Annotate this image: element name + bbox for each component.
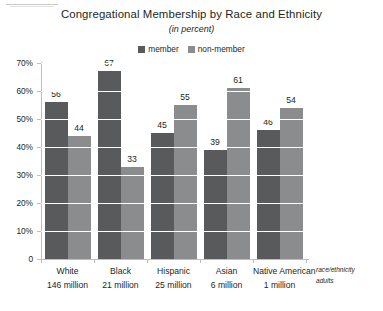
category-population: 6 million [200,278,253,292]
axis-annotation-line2: adults [316,276,355,287]
bar-member[interactable]: 46 [257,130,280,259]
category-population: 146 million [41,278,94,292]
plot-area: 56446733455539614654 [41,63,306,259]
bar-group: 4555 [147,63,200,259]
chart-container: Congregational Membership by Race and Et… [0,0,383,311]
bar-value-label: 33 [127,154,137,164]
bar-value-label: 46 [263,117,273,127]
x-axis-tick [200,259,201,263]
bar-value-label: 44 [74,123,84,133]
legend-swatch-member [138,46,145,53]
bar-non-member[interactable]: 55 [174,105,197,259]
axis-annotation-line1: race/ethnicity [316,265,355,276]
decorative-rule-secondary [10,6,54,7]
x-axis-category-label: Hispanic25 million [147,264,200,292]
legend-label-non-member: non-member [198,44,245,54]
bar-member[interactable]: 67 [98,71,121,259]
x-axis-category-label: Black21 million [94,264,147,292]
bar-member[interactable]: 56 [45,102,68,259]
x-axis-category-label: Native American1 million [253,264,306,292]
y-axis-tick [37,119,41,120]
category-name: Asian [216,266,238,276]
category-name: Native American [253,266,316,276]
y-axis-tick [37,147,41,148]
bar-group: 6733 [94,63,147,259]
bar-member[interactable]: 45 [151,133,174,259]
bar-group: 3961 [200,63,253,259]
legend-swatch-non-member [188,46,195,53]
bar-value-label: 39 [210,137,220,147]
bar-member[interactable]: 39 [204,150,227,259]
x-axis-tick [253,259,254,263]
y-axis-tick-label: 40% [0,142,33,152]
legend-item-member: member [138,44,178,54]
legend-item-non-member: non-member [188,44,245,54]
bar-value-label: 45 [157,120,167,130]
y-axis-tick [37,231,41,232]
bar-non-member[interactable]: 44 [68,136,91,259]
y-axis-tick-label: 70% [0,58,33,68]
x-axis-tick [147,259,148,263]
y-axis-tick [37,175,41,176]
y-axis-tick-label: 10% [0,226,33,236]
x-axis-category-label: Asian6 million [200,264,253,292]
bar-non-member[interactable]: 61 [227,88,250,259]
bar-value-label: 54 [286,95,296,105]
bar-value-label: 61 [233,75,243,85]
chart-title: Congregational Membership by Race and Et… [0,8,383,20]
category-population: 25 million [147,278,200,292]
x-axis-tick [94,259,95,263]
y-axis-tick-label: 60% [0,86,33,96]
x-axis-tick [306,259,307,263]
y-axis-tick [37,63,41,64]
y-axis-tick-label: 50% [0,114,33,124]
x-axis-line [41,259,309,260]
y-axis-tick-label: 20% [0,198,33,208]
category-name: Black [110,266,131,276]
bar-non-member[interactable]: 54 [280,108,303,259]
y-axis-tick-label: 30% [0,170,33,180]
bar-group: 5644 [41,63,94,259]
decorative-rule [6,4,58,5]
category-name: Hispanic [157,266,190,276]
bar-value-label: 55 [180,92,190,102]
category-name: White [57,266,79,276]
chart-subtitle: (in percent) [0,24,383,34]
y-axis-tick [37,91,41,92]
x-axis-tick [41,259,42,263]
x-axis-category-label: White146 million [41,264,94,292]
y-axis-tick [37,203,41,204]
bar-value-label: 56 [51,89,61,99]
bar-value-label: 67 [104,58,114,68]
legend-label-member: member [148,44,178,54]
category-population: 1 million [253,278,306,292]
bar-non-member[interactable]: 33 [121,167,144,259]
y-axis-tick-label: 0 [0,254,33,264]
axis-annotation: race/ethnicity adults [316,265,355,286]
bar-group: 4654 [253,63,306,259]
chart-legend: member non-member [0,44,383,54]
category-population: 21 million [94,278,147,292]
